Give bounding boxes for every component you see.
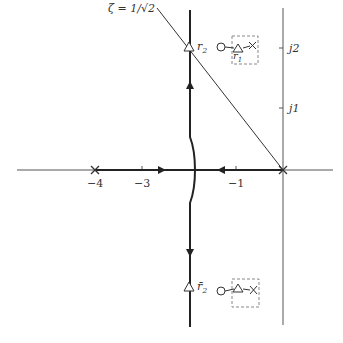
arrow-left-icon bbox=[217, 166, 225, 174]
tick-label-j2: j2 bbox=[289, 43, 299, 54]
label-r2: r2 bbox=[197, 41, 207, 55]
label-r1-sub: 1 bbox=[238, 56, 242, 64]
tick-label-minus-3: −3 bbox=[134, 178, 150, 189]
closed-loop-pole-r2bar-icon bbox=[184, 282, 194, 291]
closed-loop-pole-r2-icon bbox=[184, 42, 194, 51]
arrow-right-icon bbox=[158, 166, 166, 174]
tick-label-j1: j1 bbox=[289, 103, 299, 114]
root-locus-diagram: ζ = 1/√2 −4 −3 −1 j1 j2 r2 r̄2 r1 bbox=[0, 0, 343, 343]
label-r1: r1 bbox=[233, 51, 242, 64]
label-r2-bar: r̄2 bbox=[197, 281, 207, 295]
label-r2bar-sub: 2 bbox=[202, 286, 207, 295]
label-r2-sub: 2 bbox=[202, 46, 207, 55]
tick-label-minus-4: −4 bbox=[87, 178, 103, 189]
arrow-down-icon bbox=[186, 249, 194, 257]
locus-branch-vertical bbox=[190, 10, 195, 327]
damping-ratio-label: ζ = 1/√2 bbox=[108, 3, 155, 14]
tick-label-minus-1: −1 bbox=[228, 178, 244, 189]
inset-lower bbox=[217, 279, 259, 307]
damping-ratio-line bbox=[157, 8, 283, 170]
arrow-up-icon bbox=[186, 81, 194, 89]
